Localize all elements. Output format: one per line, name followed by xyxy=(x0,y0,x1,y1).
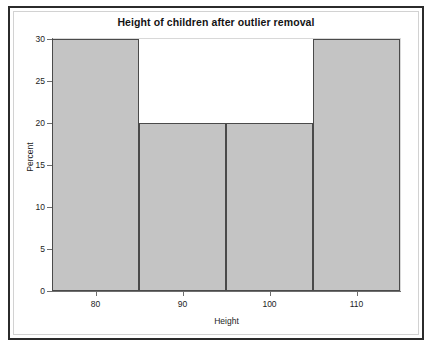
y-tick-label-wrap: 0 xyxy=(0,287,45,296)
y-tick-label-wrap: 25 xyxy=(0,77,45,86)
y-tick-mark xyxy=(47,165,52,166)
y-tick-label-wrap: 20 xyxy=(0,119,45,128)
y-tick-mark xyxy=(47,207,52,208)
plot-right-spine xyxy=(400,38,401,292)
x-tick-label: 80 xyxy=(76,299,116,309)
x-tick-label: 110 xyxy=(337,299,377,309)
x-tick-mark xyxy=(270,291,271,296)
y-tick-label-wrap: 5 xyxy=(0,245,45,254)
y-tick-mark xyxy=(47,81,52,82)
x-axis-line xyxy=(52,291,401,292)
x-tick-mark xyxy=(183,291,184,296)
y-tick-label: 0 xyxy=(15,287,45,296)
y-tick-label: 5 xyxy=(15,245,45,254)
histogram-bar xyxy=(52,39,139,291)
x-tick-mark xyxy=(96,291,97,296)
x-tick-label: 100 xyxy=(250,299,290,309)
x-axis-title: Height xyxy=(52,316,401,326)
plot-area xyxy=(52,39,400,291)
y-axis-title: Percent xyxy=(25,117,35,197)
y-tick-mark xyxy=(47,39,52,40)
y-tick-label: 10 xyxy=(15,203,45,212)
histogram-bar xyxy=(226,123,313,291)
y-tick-label: 30 xyxy=(15,35,45,44)
y-tick-mark xyxy=(47,123,52,124)
y-tick-label-wrap: 10 xyxy=(0,203,45,212)
y-tick-mark xyxy=(47,291,52,292)
chart-title: Height of children after outlier removal xyxy=(13,16,419,28)
histogram-bar xyxy=(313,39,400,291)
histogram-bar xyxy=(139,123,226,291)
y-tick-label-wrap: 15 xyxy=(0,161,45,170)
x-tick-label: 90 xyxy=(163,299,203,309)
y-tick-mark xyxy=(47,249,52,250)
x-tick-mark xyxy=(357,291,358,296)
chart-screenshot: Height of children after outlier removal… xyxy=(0,0,432,349)
y-tick-label: 25 xyxy=(15,77,45,86)
y-tick-label-wrap: 30 xyxy=(0,35,45,44)
